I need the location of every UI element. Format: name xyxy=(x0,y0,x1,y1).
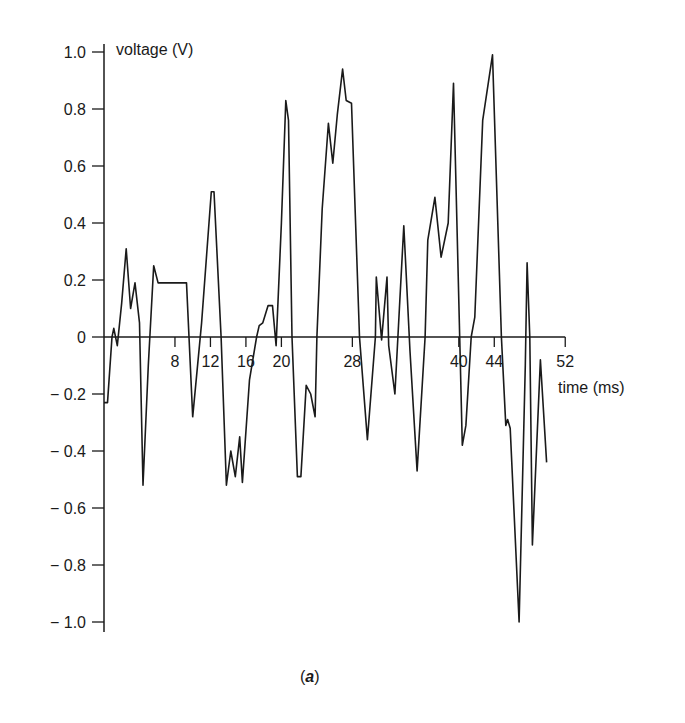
voltage-waveform-line xyxy=(104,55,547,622)
y-axis-title: voltage (V) xyxy=(116,41,193,58)
x-tick-label: 44 xyxy=(485,353,503,370)
x-tick-label: 20 xyxy=(273,353,291,370)
x-tick-label: 28 xyxy=(343,353,361,370)
x-axis: 812162028404452 xyxy=(104,337,574,370)
y-tick-label: 0.2 xyxy=(64,272,86,289)
y-axis: 1.00.80.60.40.20− 0.2− 0.4− 0.6− 0.8− 1.… xyxy=(50,44,104,632)
caption-close-paren: ) xyxy=(314,668,319,685)
y-tick-label: 1.0 xyxy=(64,44,86,61)
caption-letter: a xyxy=(305,668,314,685)
figure-caption: (a) xyxy=(300,668,320,686)
x-tick-label: 52 xyxy=(556,353,574,370)
y-tick-label: − 0.4 xyxy=(50,443,86,460)
y-tick-label: 0 xyxy=(77,329,86,346)
x-tick-label: 40 xyxy=(450,353,468,370)
y-tick-label: − 0.6 xyxy=(50,500,86,517)
y-tick-label: − 0.8 xyxy=(50,557,86,574)
y-tick-label: − 1.0 xyxy=(50,614,86,631)
y-tick-label: 0.4 xyxy=(64,215,86,232)
y-tick-label: 0.8 xyxy=(64,101,86,118)
y-tick-label: 0.6 xyxy=(64,158,86,175)
x-tick-label: 12 xyxy=(202,353,220,370)
x-tick-label: 8 xyxy=(171,353,180,370)
x-axis-title: time (ms) xyxy=(558,379,625,396)
y-tick-label: − 0.2 xyxy=(50,386,86,403)
voltage-time-chart: 1.00.80.60.40.20− 0.2− 0.4− 0.6− 0.8− 1.… xyxy=(0,0,685,723)
